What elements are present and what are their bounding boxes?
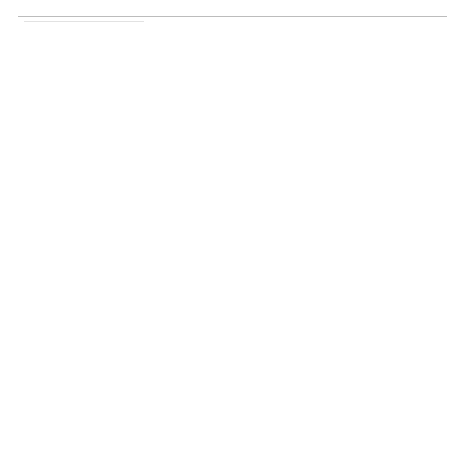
- diagram-plain: [0, 0, 464, 228]
- diagram-with-magnifier: [0, 228, 464, 455]
- figure-page: [0, 0, 464, 455]
